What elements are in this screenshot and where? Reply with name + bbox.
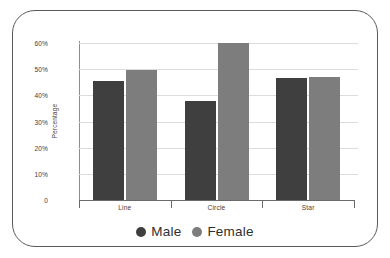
bar-line-male: [93, 81, 124, 200]
chart-legend: MaleFemale: [13, 225, 377, 239]
x-axis-separator: [354, 200, 355, 208]
plot-area: [79, 43, 354, 200]
bar-circle-female: [218, 43, 249, 200]
y-axis-title: Percentage: [51, 104, 58, 139]
y-tick-label: 30%: [8, 118, 48, 125]
legend-label: Male: [151, 225, 181, 239]
legend-swatch-male-icon: [136, 227, 146, 237]
y-tick-label: 60%: [8, 40, 48, 47]
y-tick-label: 0: [8, 197, 48, 204]
x-axis-line: [79, 200, 355, 201]
chart-screenshot: Percentage 010%20%30%40%50%60% LineCircl…: [0, 0, 390, 258]
y-tick-label: 50%: [8, 66, 48, 73]
bar-star-female: [309, 77, 340, 200]
bar-star-male: [276, 78, 307, 200]
y-tick-label: 20%: [8, 144, 48, 151]
legend-label: Female: [207, 225, 253, 239]
bar-line-female: [126, 70, 157, 200]
x-category-label-line: Line: [79, 204, 171, 211]
legend-item-male[interactable]: Male: [136, 225, 181, 239]
y-tick-label: 40%: [8, 92, 48, 99]
chart-card: Percentage 010%20%30%40%50%60% LineCircl…: [12, 10, 378, 247]
bar-circle-male: [185, 101, 216, 200]
y-tick-label: 10%: [8, 170, 48, 177]
legend-item-female[interactable]: Female: [192, 225, 253, 239]
x-category-label-star: Star: [262, 204, 354, 211]
x-category-label-circle: Circle: [171, 204, 263, 211]
legend-swatch-female-icon: [192, 227, 202, 237]
